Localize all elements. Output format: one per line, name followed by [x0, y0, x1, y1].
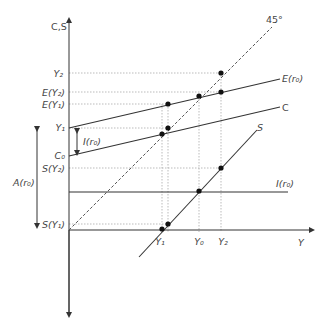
autonomous-label: A(r₀) [12, 177, 35, 188]
xtick-y2: Y₂ [218, 236, 228, 247]
xtick-y1: Y₁ [155, 236, 165, 247]
tick-s-y2: S(Y₂) [42, 163, 65, 174]
tick-y1: Y₁ [55, 122, 65, 133]
xtick-y0: Y₀ [194, 236, 204, 247]
x-axis-label: Y [298, 237, 305, 248]
y-axis-label: C,S [51, 21, 67, 32]
tick-e-y1: E(Y₁) [42, 99, 65, 110]
consumption-line [69, 107, 280, 156]
tick-s-y1: S(Y₁) [42, 219, 65, 230]
forty-five-label: 45° [266, 14, 283, 25]
investment-label: I(r₀) [276, 178, 294, 189]
keynesian-cross-diagram: C,S Y 45° E(r₀) C S I(r₀) Y₂ E(Y₂) E(Y₁)… [0, 0, 323, 325]
expenditure-label: E(r₀) [282, 73, 303, 84]
expenditure-line [69, 79, 280, 128]
saving-label: S [257, 122, 263, 133]
investment-gap-label: I(r₀) [83, 136, 101, 147]
tick-c0: C₀ [55, 150, 66, 161]
tick-y2: Y₂ [53, 68, 63, 79]
consumption-label: C [282, 102, 289, 113]
tick-e-y2: E(Y₂) [42, 87, 65, 98]
